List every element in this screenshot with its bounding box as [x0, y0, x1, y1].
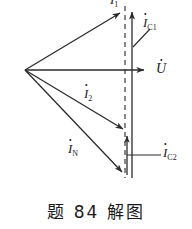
label-in-subscript: N	[72, 149, 78, 158]
phasor-diagram-figure: I1 IC1 U I2 IN IC2 题 84 解图	[0, 0, 192, 229]
label-i2-subscript: 2	[88, 94, 92, 103]
vector-i1	[25, 13, 120, 70]
label-i2: I2	[84, 87, 92, 100]
phasor-diagram-canvas	[0, 0, 192, 200]
label-ic2-subscript: C2	[167, 153, 176, 162]
figure-caption: 题 84 解图	[0, 198, 192, 223]
label-ic1-subscript: C1	[147, 23, 156, 32]
label-ic1: IC1	[143, 16, 157, 29]
label-u-symbol: U	[156, 62, 166, 76]
label-in: IN	[68, 142, 78, 155]
label-ic2: IC2	[163, 146, 177, 159]
vector-i2	[25, 70, 123, 129]
label-u: U	[156, 62, 166, 76]
label-i1-subscript: 1	[114, 0, 118, 9]
label-i1: I1	[110, 0, 118, 6]
